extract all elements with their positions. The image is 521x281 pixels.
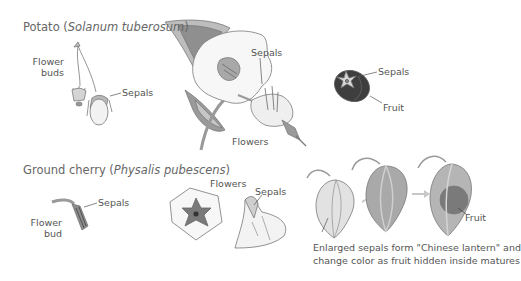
caption-line: change color as fruit hidden inside matu… bbox=[313, 254, 521, 267]
label-ground-cherry-flowers: Flowers bbox=[210, 178, 246, 189]
lantern-caption: Enlarged sepals form "Chinese lantern" a… bbox=[313, 241, 521, 267]
ground-cherry-lanterns-drawing bbox=[307, 156, 471, 238]
potato-common-name: Potato ( bbox=[23, 20, 68, 34]
ground-cherry-common-name: Ground cherry ( bbox=[23, 163, 114, 177]
label-line: Flower bbox=[30, 217, 62, 228]
ground-cherry-flowers-drawing bbox=[170, 188, 286, 248]
label-line: bud bbox=[30, 228, 62, 239]
title-paren: ) bbox=[184, 20, 189, 34]
ground-cherry-species-name: Physalis pubescens bbox=[114, 163, 226, 177]
label-line: buds bbox=[30, 67, 64, 78]
label-line: Flower bbox=[30, 56, 64, 67]
label-ground-cherry-flower-bud: Flower bud bbox=[30, 217, 62, 239]
potato-species-name: Solanum tuberosum bbox=[68, 20, 184, 34]
label-potato-fruit-sepals: Sepals bbox=[378, 66, 409, 77]
label-potato-flower-sepals: Sepals bbox=[251, 47, 282, 58]
label-potato-flowers: Flowers bbox=[232, 136, 268, 147]
potato-title: Potato (Solanum tuberosum) bbox=[23, 20, 189, 34]
title-paren: ) bbox=[226, 163, 231, 177]
potato-fruit-drawing bbox=[329, 65, 374, 107]
label-potato-fruit: Fruit bbox=[383, 102, 404, 113]
label-ground-cherry-flower-sepals: Sepals bbox=[255, 186, 286, 197]
ground-cherry-title: Ground cherry (Physalis pubescens) bbox=[23, 163, 230, 177]
caption-line: Enlarged sepals form "Chinese lantern" a… bbox=[313, 241, 521, 254]
potato-flowers-drawing bbox=[165, 20, 306, 150]
label-potato-flower-buds: Flower buds bbox=[30, 56, 64, 78]
label-ground-cherry-fruit: Fruit bbox=[465, 212, 486, 223]
label-ground-cherry-bud-sepals: Sepals bbox=[98, 197, 129, 208]
label-potato-bud-sepals: Sepals bbox=[122, 87, 153, 98]
potato-flower-buds-drawing bbox=[72, 42, 112, 125]
